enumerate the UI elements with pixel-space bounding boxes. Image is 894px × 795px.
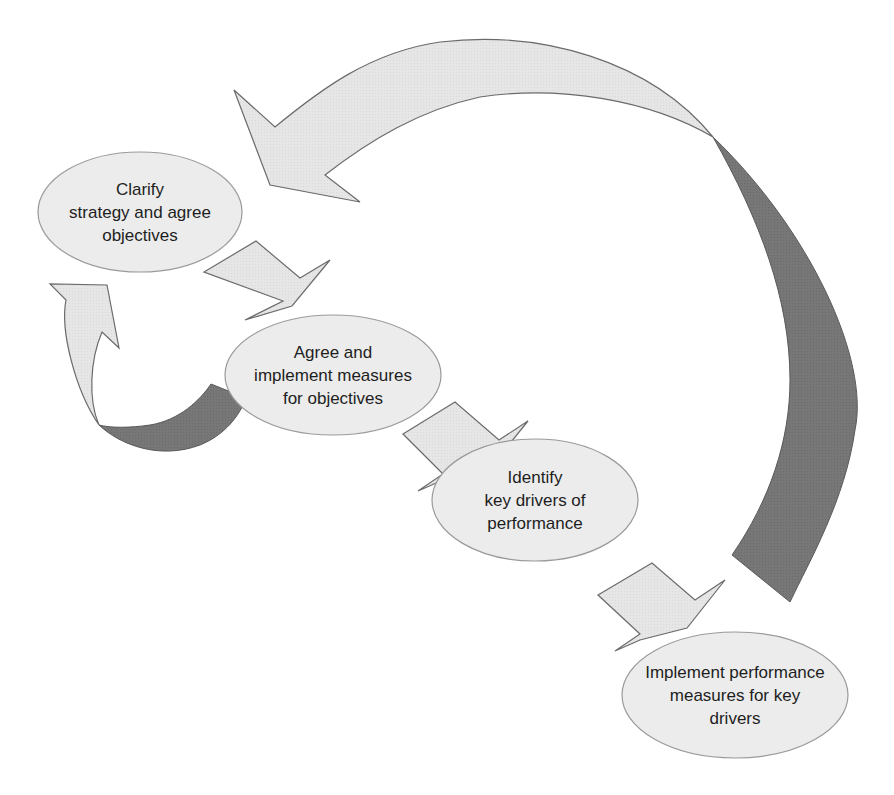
small-feedback-arrow: [50, 284, 119, 425]
node-agree-ellipse: [225, 315, 441, 435]
large-feedback-arrow: [234, 39, 713, 202]
node-implement-ellipse: [622, 632, 848, 758]
node-clarify-ellipse: [38, 152, 242, 272]
small-feedback-arrow-tail: [99, 384, 246, 451]
flow-arrow-1: [204, 241, 330, 320]
node-identify-ellipse: [432, 439, 638, 561]
large-feedback-arrow-tail: [713, 137, 857, 602]
process-diagram: Clarify strategy and agree objectives Ag…: [0, 0, 894, 795]
